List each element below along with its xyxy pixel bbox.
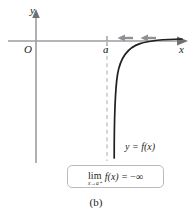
y-axis-label: y	[30, 5, 35, 16]
limit-formula: lim x→a⁺ f(x) = −∞	[68, 166, 163, 187]
limit-subscript: x→a⁺	[88, 180, 102, 186]
origin-label: O	[24, 44, 32, 55]
limit-equals: =	[122, 171, 128, 182]
curve-label: y = f(x)	[125, 142, 155, 152]
figure-caption: (b)	[0, 196, 192, 208]
figure-limit-graph: y x O a y = f(x) lim x→a⁺ f(x) = −∞ (b)	[0, 0, 192, 214]
limit-formula-box: lim x→a⁺ f(x) = −∞	[67, 165, 164, 188]
limit-operator: lim x→a⁺	[88, 170, 102, 186]
asymptote-tick-label: a	[103, 44, 109, 55]
limit-function: f(x)	[105, 171, 119, 182]
limit-value: −∞	[130, 171, 143, 182]
x-axis-label: x	[179, 44, 184, 55]
